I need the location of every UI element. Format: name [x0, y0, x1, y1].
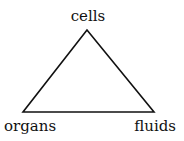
- node-label-cells: cells: [71, 7, 106, 25]
- node-label-fluids: fluids: [134, 117, 176, 135]
- triangle-shape: [23, 30, 154, 112]
- triangle-diagram: cells organs fluids: [0, 0, 184, 141]
- node-label-organs: organs: [4, 117, 56, 135]
